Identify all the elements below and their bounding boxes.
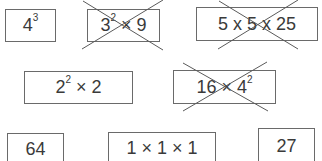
card-2-squared-times-2[interactable]: 22 × 2: [24, 71, 133, 104]
card-4-cubed[interactable]: 43: [5, 9, 56, 42]
card-1x1x1[interactable]: 1 × 1 × 1: [108, 132, 216, 161]
card-3-squared-times-9[interactable]: 32 × 9: [87, 9, 160, 42]
card-expression: 27: [276, 136, 296, 157]
card-expression: 16 × 42: [196, 77, 252, 98]
card-expression: 64: [25, 139, 45, 160]
card-expression: 5 x 5 x 25: [218, 14, 296, 35]
card-64[interactable]: 64: [7, 133, 64, 161]
card-16-times-4-squared[interactable]: 16 × 42: [173, 70, 276, 104]
card-expression: 22 × 2: [55, 77, 101, 98]
card-expression: 1 × 1 × 1: [126, 138, 197, 159]
card-expression: 32 × 9: [100, 15, 146, 36]
card-expression: 43: [23, 15, 39, 36]
card-5x5x25[interactable]: 5 x 5 x 25: [196, 7, 318, 41]
card-27[interactable]: 27: [258, 128, 315, 161]
